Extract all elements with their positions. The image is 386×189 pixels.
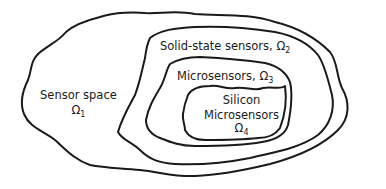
- label-omega3: Microsensors, Ω3: [177, 71, 273, 83]
- omega4-line2: Microsensors: [204, 110, 279, 122]
- omega1-name: Sensor space: [40, 90, 117, 102]
- omega4-symbol: Ω4: [204, 123, 279, 135]
- omega1-symbol: Ω1: [40, 105, 117, 117]
- omega4-line1: Silicon: [204, 95, 279, 107]
- label-omega4: Silicon Microsensors Ω4: [204, 95, 279, 135]
- label-omega2: Solid-state sensors, Ω2: [160, 41, 290, 53]
- label-omega1: Sensor space Ω1: [40, 90, 117, 116]
- venn-diagram: Sensor space Ω1 Solid-state sensors, Ω2 …: [0, 0, 386, 189]
